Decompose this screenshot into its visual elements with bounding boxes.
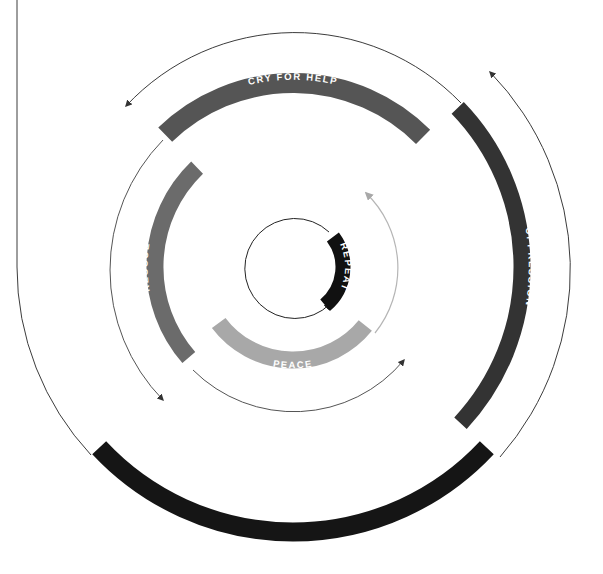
label-peace: PEACE bbox=[272, 358, 313, 371]
arrow-peace-to-repeat bbox=[366, 193, 398, 333]
arrow-repeat-loop bbox=[245, 218, 330, 318]
judges-cycle-diagram: CRY FOR HELP OPPRESSION REBELLION RESCUE… bbox=[0, 0, 603, 574]
connector-left-line bbox=[17, 0, 91, 455]
stage-band-cry-for-help bbox=[165, 83, 423, 137]
stage-band-rebellion bbox=[99, 448, 487, 532]
stage-band-peace bbox=[219, 323, 366, 360]
stage-band-rescue bbox=[155, 168, 197, 358]
arrow-oppression-to-cry bbox=[126, 33, 461, 106]
stage-band-oppression bbox=[458, 108, 522, 423]
